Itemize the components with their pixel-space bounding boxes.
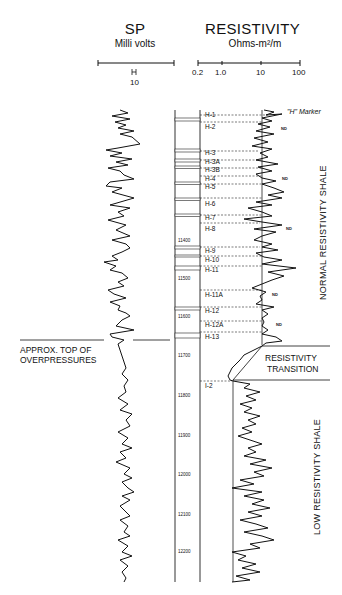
transition-label-1: RESISTIVITY <box>265 353 317 363</box>
marker-label: H-3A <box>205 158 220 165</box>
depth-label: 11600 <box>178 314 190 319</box>
marker-label: H-3B <box>205 166 220 173</box>
nd-label: ND <box>281 126 287 131</box>
marker-label: I-2 <box>205 382 213 389</box>
nd-label: ND <box>276 322 282 327</box>
depth-label: 12100 <box>178 512 191 517</box>
overpressure-label-1: APPROX. TOP OF <box>20 345 91 355</box>
depth-label: 11400 <box>178 238 190 243</box>
marker-label: H-13 <box>205 333 219 340</box>
depth-label: 11900 <box>178 433 190 438</box>
marker-label: H-12 <box>205 307 219 314</box>
nd-label: ND <box>282 176 288 181</box>
marker-label: H-7 <box>205 214 215 221</box>
depth-label: 11800 <box>178 393 190 398</box>
res-tick-0: 0.2 <box>192 68 203 77</box>
res-tick-1: 1.0 <box>215 68 226 77</box>
sp-scale-label: 10 <box>130 78 139 87</box>
marker-label: H-4 <box>205 175 215 182</box>
nd-label: ND <box>272 292 278 297</box>
low-shale-label: LOW RESISTIVITY SHALE <box>312 419 322 535</box>
res-tick-2: 10 <box>256 68 265 77</box>
marker-label: H-12A <box>205 321 223 328</box>
marker-label: H-5 <box>205 183 215 190</box>
res-tick-3: 100 <box>292 68 305 77</box>
h-marker-note: "H" Marker <box>287 108 321 115</box>
marker-label: H-10 <box>205 256 219 263</box>
depth-label: 11500 <box>178 276 190 281</box>
log-graphics <box>0 0 342 595</box>
depth-label: 11700 <box>178 353 190 358</box>
marker-label: H-3 <box>205 149 215 156</box>
normal-shale-label: NORMAL RESISTIVITY SHALE <box>318 165 328 300</box>
marker-label: H-11 <box>205 266 219 273</box>
marker-label: H-8 <box>205 225 215 232</box>
transition-label-2: TRANSITION <box>267 364 318 374</box>
depth-label: 12200 <box>178 549 191 554</box>
marker-label: H-11A <box>205 291 223 298</box>
marker-label: H-1 <box>205 111 215 118</box>
marker-label: H-9 <box>205 247 215 254</box>
depth-label: 12000 <box>178 472 191 477</box>
marker-label: H-2 <box>205 123 215 130</box>
nd-label: ND <box>286 226 292 231</box>
marker-label: H-6 <box>205 200 215 207</box>
overpressure-label-2: OVERPRESSURES <box>20 355 97 365</box>
